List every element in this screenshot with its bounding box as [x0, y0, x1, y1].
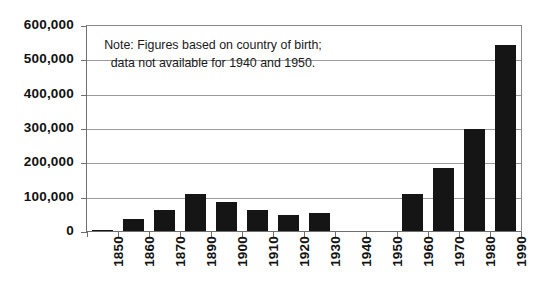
bar-slot: [490, 26, 521, 232]
x-tick-label-text: 1990: [515, 236, 529, 267]
bar-slot: [366, 26, 397, 232]
y-tick-label: 600,000: [24, 18, 74, 32]
x-tick-label-text: 1930: [329, 236, 343, 267]
x-tick-label: 1970: [449, 236, 463, 267]
x-tick-label: 1950: [387, 236, 401, 267]
x-tick-label: 1990: [511, 236, 525, 267]
x-tick-label: 1930: [325, 236, 339, 267]
x-tick-label-text: 1910: [267, 236, 281, 267]
x-tick-label: 1860: [139, 236, 153, 267]
x-tick-label-text: 1980: [484, 236, 498, 267]
bar-slot: [459, 26, 490, 232]
y-tick-label: 200,000: [24, 155, 74, 169]
y-axis-labels: 600,000 500,000 400,000 300,000 200,000 …: [0, 0, 80, 288]
x-tick-label: 1920: [294, 236, 308, 267]
x-tick-label: 1910: [263, 236, 277, 267]
x-tick-label-text: 1940: [360, 236, 374, 267]
bar: [464, 129, 485, 232]
x-tick-label: 1900: [232, 236, 246, 267]
x-tick-label: 1960: [418, 236, 432, 267]
x-tick-label-text: 1850: [112, 236, 126, 267]
bar-slot: [397, 26, 428, 232]
bar-slot: [335, 26, 366, 232]
note-annotation: Note: Figures based on country of birth;…: [104, 36, 322, 72]
y-tick-label: 400,000: [24, 87, 74, 101]
x-tick-label-text: 1970: [453, 236, 467, 267]
x-axis-baseline: [87, 231, 521, 232]
bar-chart: 600,000 500,000 400,000 300,000 200,000 …: [0, 0, 557, 288]
bar: [402, 194, 423, 232]
bar: [433, 168, 454, 232]
x-tick-label-text: 1920: [298, 236, 312, 267]
y-tick-label: 300,000: [24, 121, 74, 135]
x-tick-label: 1870: [170, 236, 184, 267]
x-axis-labels: 1850186018701890190019101920193019401950…: [86, 236, 520, 288]
x-tick-label-text: 1950: [391, 236, 405, 267]
bar-slot: [428, 26, 459, 232]
y-tick-label: 500,000: [24, 52, 74, 66]
x-tick-label-text: 1960: [422, 236, 436, 267]
x-tick-label: 1890: [201, 236, 215, 267]
x-tick-label-text: 1900: [236, 236, 250, 267]
x-tick-label: 1850: [108, 236, 122, 267]
x-tick-label-text: 1890: [205, 236, 219, 267]
x-tick-label-text: 1870: [174, 236, 188, 267]
y-tick-label: 100,000: [24, 190, 74, 204]
x-tick-label: 1980: [480, 236, 494, 267]
bar: [309, 213, 330, 232]
x-tick-label: 1940: [356, 236, 370, 267]
bar: [154, 210, 175, 232]
bar: [247, 210, 268, 232]
y-tick-label: 0: [66, 224, 74, 238]
x-tick-label-text: 1860: [143, 236, 157, 267]
bar: [278, 215, 299, 233]
bar: [495, 45, 516, 232]
bar: [185, 194, 206, 232]
bar: [216, 202, 237, 232]
